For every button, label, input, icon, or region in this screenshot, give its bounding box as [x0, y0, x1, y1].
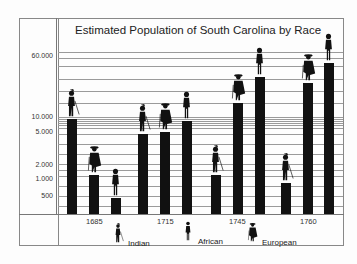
- x-tick-label: 1685: [86, 217, 103, 226]
- european-figure-icon: [156, 101, 173, 135]
- x-tick-label: 1760: [300, 217, 317, 226]
- y-tick-label: 1.000: [20, 175, 53, 182]
- bar-european: [233, 103, 243, 214]
- african-figure-icon: [182, 220, 194, 246]
- gridline: [58, 196, 343, 197]
- bar-african: [182, 121, 192, 214]
- bar-indian: [138, 134, 148, 214]
- gridline: [58, 206, 343, 207]
- gridline: [58, 134, 343, 135]
- bar-indian: [281, 183, 291, 214]
- y-tick-label: 2.000: [20, 161, 53, 168]
- indian-figure-icon: [277, 152, 294, 186]
- bar-european: [89, 175, 99, 214]
- gridline: [58, 91, 343, 92]
- gridline: [58, 125, 343, 126]
- legend-item-european: European: [246, 221, 297, 247]
- legend-item-african: African: [182, 220, 223, 246]
- gridline: [58, 117, 343, 118]
- bar-african: [324, 63, 334, 214]
- european-figure-icon: [229, 72, 246, 106]
- gridline: [58, 121, 343, 122]
- gridline: [58, 119, 343, 120]
- legend-label: African: [198, 237, 223, 246]
- african-figure-icon: [178, 90, 195, 124]
- gridline: [58, 123, 343, 124]
- x-tick-label: 1715: [157, 217, 174, 226]
- gridline: [58, 128, 343, 129]
- african-figure-icon: [251, 46, 268, 80]
- bar-african: [255, 77, 265, 214]
- gridline: [58, 103, 343, 104]
- y-tick-label: 10.000: [20, 113, 53, 120]
- bar-indian: [67, 119, 77, 214]
- y-tick-label: 500: [20, 192, 53, 199]
- x-tick-label: 1745: [229, 217, 246, 226]
- y-tick-label: 5.000: [20, 128, 53, 135]
- european-figure-icon: [299, 52, 316, 86]
- chart-title: Estimated Population of South Carolina b…: [75, 24, 321, 36]
- legend-item-indian: Indian: [112, 222, 150, 248]
- african-figure-icon: [107, 167, 124, 201]
- indian-figure-icon: [134, 103, 151, 137]
- legend-label: European: [262, 238, 297, 247]
- legend-label: Indian: [128, 239, 150, 248]
- indian-figure-icon: [112, 222, 124, 248]
- gridline: [58, 186, 343, 187]
- european-figure-icon: [85, 144, 102, 178]
- bar-european: [303, 83, 313, 214]
- bar-indian: [211, 175, 221, 214]
- bar-european: [160, 132, 170, 214]
- indian-figure-icon: [207, 144, 224, 178]
- chart-baseline: [19, 214, 344, 215]
- african-figure-icon: [320, 32, 337, 66]
- y-tick-label: 60.000: [20, 52, 53, 59]
- indian-figure-icon: [63, 88, 80, 122]
- european-figure-icon: [246, 221, 258, 247]
